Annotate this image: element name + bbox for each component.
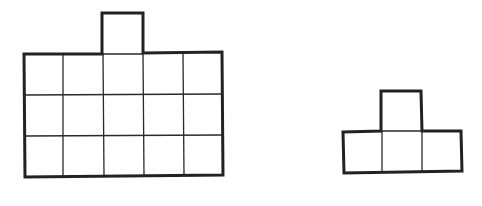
- small-shape: [343, 91, 462, 173]
- small-shape-grid-lines: [382, 131, 422, 172]
- large-shape: [24, 13, 223, 177]
- large-shape-grid-lines: [24, 54, 222, 176]
- small-shape-outline: [343, 91, 462, 173]
